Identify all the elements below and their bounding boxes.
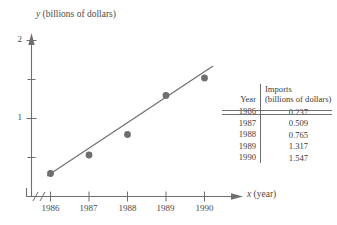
data-point-1990	[201, 75, 208, 82]
data-point-1988	[124, 131, 131, 138]
column-header-imports-line2: (billions of dollars)	[265, 94, 332, 104]
imports-data-table: Year Imports (billions of dollars) 1986 …	[222, 84, 332, 163]
x-tick-label-1986: 1986	[34, 204, 67, 213]
y-axis-units: (billions of dollars)	[40, 9, 116, 19]
x-axis-arrowhead	[231, 193, 243, 199]
y-axis-label: y (billions of dollars)	[36, 10, 116, 20]
x-tick-label-1987: 1987	[72, 204, 105, 213]
column-header-year: Year	[222, 84, 261, 106]
y-tick-label-2: 2	[10, 35, 22, 44]
column-header-imports: Imports (billions of dollars)	[261, 84, 333, 106]
data-point-1987	[86, 152, 93, 159]
x-tick-label-1988: 1988	[111, 204, 144, 213]
x-tick-label-1990: 1990	[188, 204, 221, 213]
cell-year: 1987	[222, 117, 261, 128]
table-head: Year Imports (billions of dollars)	[222, 84, 332, 106]
table-row: 1988 0.765	[222, 129, 332, 140]
table-row: 1989 1.317	[222, 140, 332, 151]
y-axis-arrowhead	[28, 33, 34, 45]
table-row: 1990 1.547	[222, 152, 332, 163]
column-header-imports-line1: Imports	[265, 84, 332, 94]
trend-line	[47, 66, 213, 176]
x-tick-label-1989: 1989	[149, 204, 182, 213]
data-point-1986	[47, 170, 54, 177]
x-axis-label: x (year)	[247, 190, 276, 200]
cell-value: 0.509	[261, 117, 333, 128]
table-header-double-rule	[222, 110, 332, 115]
y-tick-label-1: 1	[10, 113, 22, 122]
cell-value: 1.547	[261, 152, 333, 163]
cell-value: 1.317	[261, 140, 333, 151]
table-row: 1987 0.509	[222, 117, 332, 128]
data-point-1989	[163, 92, 170, 99]
cell-year: 1990	[222, 152, 261, 163]
cell-value: 0.765	[261, 129, 333, 140]
table-header-row: Year Imports (billions of dollars)	[222, 84, 332, 106]
x-axis-units: (year)	[251, 189, 276, 199]
cell-year: 1988	[222, 129, 261, 140]
scatter-plot-figure: y (billions of dollars) x (year) 2 1 198…	[0, 0, 337, 225]
cell-year: 1989	[222, 140, 261, 151]
